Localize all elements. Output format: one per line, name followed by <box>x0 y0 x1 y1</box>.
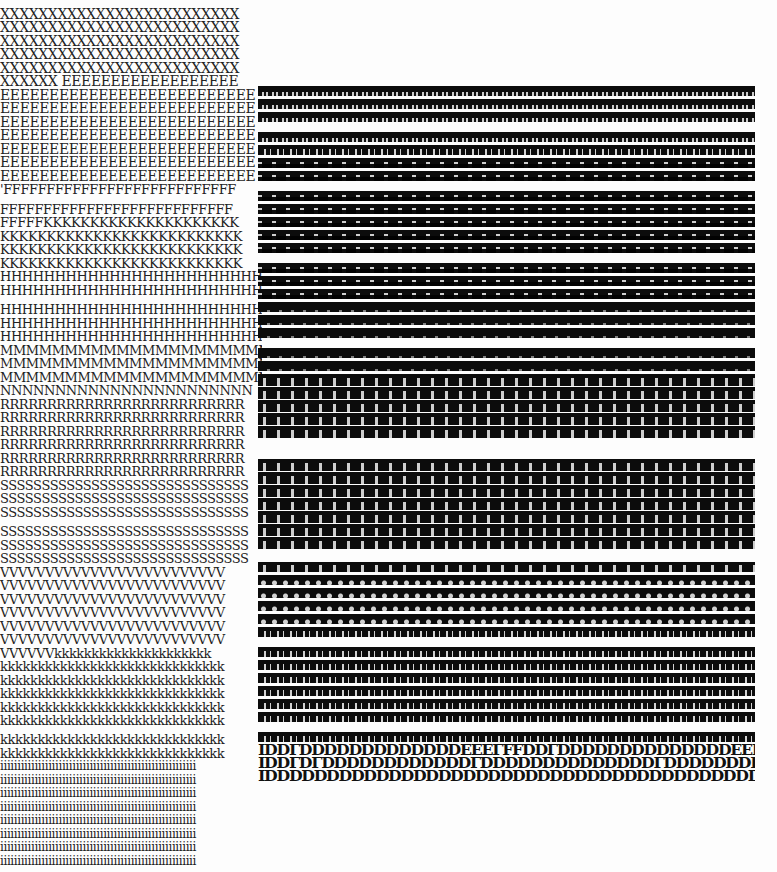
strip-texture <box>258 631 755 637</box>
strip-texture <box>258 515 755 523</box>
typed-row: kkkkkkkkkkkkkkkkkkkkkkkkkkkkkk <box>0 687 262 700</box>
typed-row: EEEEEEEEEEEEEEEEEEEEEEEEEE <box>0 116 262 129</box>
overstruck-strip <box>258 459 755 471</box>
typed-row: kkkkkkkkkkkkkkkkkkkkkkkkkkkkkk <box>0 701 262 714</box>
typed-row: VVVVVVVVVVVVVVVVVVVVVVVVV <box>0 633 262 646</box>
overstruck-strip <box>258 413 755 425</box>
bold-d-row: IDDDDDDDDDDDDDDDDDDDDDDDDDDDDDDDDDDDDDDD… <box>258 770 755 783</box>
strip-texture <box>258 118 755 123</box>
overstruck-strip <box>258 158 755 168</box>
strip-texture <box>258 736 755 742</box>
typed-row: EEEEEEEEEEEEEEEEEEEEEEEEEE <box>0 102 262 115</box>
overstruck-strip <box>258 145 755 155</box>
overstruck-strip <box>258 328 755 338</box>
strip-texture <box>258 430 755 438</box>
overstruck-strip <box>258 171 755 181</box>
typed-row: MMMMMMMMMMMMMMMMMMMMMM <box>0 371 262 384</box>
typed-row: VVVVVVkkkkkkkkkkkkkkkkkkkkk <box>0 647 262 660</box>
strip-texture <box>258 404 755 412</box>
typed-row: kkkkkkkkkkkkkkkkkkkkkkkkkkkkkk <box>0 747 262 760</box>
overstruck-strip <box>258 673 755 683</box>
typed-row: EEEEEEEEEEEEEEEEEEEEEEEEEE <box>0 170 262 183</box>
strip-texture <box>258 149 755 155</box>
strip-texture <box>258 591 755 598</box>
strip-texture <box>258 677 755 683</box>
overstruck-strip <box>258 562 755 572</box>
overstruck-strip <box>258 588 755 598</box>
overstruck-strip <box>258 361 755 371</box>
overstruck-strip <box>258 217 755 227</box>
overstruck-strip <box>258 511 755 523</box>
strip-texture <box>258 502 755 510</box>
typed-row: 'FFFFFFFFFFFFFFFFFFFFFFFFFFF <box>0 183 262 196</box>
overstruck-strip <box>258 712 755 722</box>
strip-texture <box>258 690 755 696</box>
typed-row: SSSSSSSSSSSSSSSSSSSSSSSSSSSSSS <box>0 539 262 552</box>
overstruck-strip <box>258 276 755 286</box>
bold-d-text: IDDDDDDDDDDDDDDDDDDDDDDDDDDDDDDDDDDDDDDD… <box>258 770 755 783</box>
typed-row: XXXXXXXXXXXXXXXXXXXXXXXXX <box>0 21 262 34</box>
scanned-test-sheet: XXXXXXXXXXXXXXXXXXXXXXXXXXXXXXXXXXXXXXXX… <box>0 0 777 872</box>
typed-row: kkkkkkkkkkkkkkkkkkkkkkkkkkkkkk <box>0 674 262 687</box>
typed-row: SSSSSSSSSSSSSSSSSSSSSSSSSSSSSS <box>0 492 262 505</box>
strip-texture <box>258 604 755 611</box>
typed-row: XXXXXXXXXXXXXXXXXXXXXXXXX <box>0 62 262 75</box>
strip-texture <box>258 195 755 201</box>
overstruck-strip <box>258 472 755 484</box>
strip-texture <box>258 716 755 722</box>
strip-texture <box>258 323 755 325</box>
typed-row: iiiiiiiiiiiiiiiiiiiiiiiiiiiiiiiiiiiiiiii… <box>0 787 262 800</box>
typed-row: VVVVVVVVVVVVVVVVVVVVVVVVV <box>0 579 262 592</box>
typed-row: RRRRRRRRRRRRRRRRRRRRRRRRRR <box>0 425 262 438</box>
typed-row: MMMMMMMMMMMMMMMMMMMMMM <box>0 344 262 357</box>
overstruck-strip <box>258 315 755 325</box>
overstruck-strip <box>258 660 755 670</box>
typed-row: kkkkkkkkkkkkkkkkkkkkkkkkkkkkkk <box>0 714 262 727</box>
typed-row: MMMMMMMMMMMMMMMMMMMMMM <box>0 357 262 370</box>
typed-row: iiiiiiiiiiiiiiiiiiiiiiiiiiiiiiiiiiiiiiii… <box>0 841 262 854</box>
overstruck-strip <box>258 243 755 253</box>
strip-texture <box>258 703 755 709</box>
strip-texture <box>258 378 755 386</box>
strip-texture <box>258 92 755 97</box>
typed-row: EEEEEEEEEEEEEEEEEEEEEEEEEE <box>0 143 262 156</box>
overstruck-strip <box>258 485 755 497</box>
typed-row: kkkkkkkkkkkkkkkkkkkkkkkkkkkkkk <box>0 660 262 673</box>
typed-row: HHHHHHHHHHHHHHHHHHHHHHHHH <box>0 270 262 283</box>
typed-row: VVVVVVVVVVVVVVVVVVVVVVVVV <box>0 566 262 579</box>
typed-row: iiiiiiiiiiiiiiiiiiiiiiiiiiiiiiiiiiiiiiii… <box>0 828 262 841</box>
strip-texture <box>258 664 755 670</box>
strip-texture <box>258 476 755 484</box>
typed-row: iiiiiiiiiiiiiiiiiiiiiiiiiiiiiiiiiiiiiiii… <box>0 855 262 868</box>
strip-texture <box>258 310 755 312</box>
overstruck-strip <box>258 289 755 299</box>
strip-texture <box>258 267 755 273</box>
overstruck-strip <box>258 302 755 312</box>
overstruck-strip <box>258 524 755 536</box>
overstruck-strip <box>258 191 755 201</box>
strip-texture <box>258 221 755 227</box>
typed-row: VVVVVVVVVVVVVVVVVVVVVVVVV <box>0 620 262 633</box>
strip-texture <box>258 463 755 471</box>
strip-texture <box>258 391 755 399</box>
typed-row: FFFFFFFFFFFFFFFFFFFFFFFFFFF <box>0 203 262 216</box>
typed-row: iiiiiiiiiiiiiiiiiiiiiiiiiiiiiiiiiiiiiiii… <box>0 801 262 814</box>
overstruck-strip <box>258 99 755 109</box>
strip-texture <box>258 234 755 240</box>
typed-row: FFFFFKKKKKKKKKKKKKKKKKKKKK <box>0 216 262 229</box>
typed-row: RRRRRRRRRRRRRRRRRRRRRRRRRR <box>0 411 262 424</box>
strip-texture <box>258 565 755 572</box>
typed-row: RRRRRRRRRRRRRRRRRRRRRRRRRR <box>0 465 262 478</box>
strip-texture <box>258 336 755 338</box>
typed-row: HHHHHHHHHHHHHHHHHHHHHHHHH <box>0 303 262 316</box>
strip-texture <box>258 293 755 299</box>
typed-row: iiiiiiiiiiiiiiiiiiiiiiiiiiiiiiiiiiiiiiii… <box>0 760 262 773</box>
overstruck-strip <box>258 263 755 273</box>
strip-texture <box>258 356 755 358</box>
typed-row: EEEEEEEEEEEEEEEEEEEEEEEEEE <box>0 89 262 102</box>
strip-texture <box>258 617 755 624</box>
strip-texture <box>258 162 755 168</box>
overstruck-strip <box>258 86 755 96</box>
overstruck-strip <box>258 426 755 438</box>
overstruck-strip <box>258 230 755 240</box>
